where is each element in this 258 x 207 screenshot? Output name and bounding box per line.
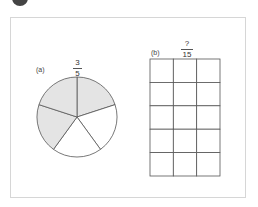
grid-cell [197,153,220,176]
grid-cell [173,129,196,152]
grid-cell [173,106,196,129]
grid-cell [173,153,196,176]
grid-cell [150,59,173,82]
grid-cell [150,106,173,129]
grid-fifteenths [150,59,220,176]
grid-cell [150,129,173,152]
grid-cell [150,82,173,105]
grid-cell [197,59,220,82]
grid-cell [173,82,196,105]
grid-cell [173,59,196,82]
diagram-canvas [0,0,258,207]
pie-chart-fifths [37,77,117,157]
grid-cell [197,106,220,129]
grid-cell [150,153,173,176]
grid-cell [197,129,220,152]
grid-cell [197,82,220,105]
